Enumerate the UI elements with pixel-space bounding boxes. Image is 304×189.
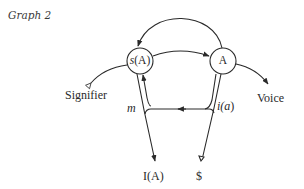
label-i-of-a: i(a) — [217, 100, 234, 112]
edge-m-outer — [137, 74, 155, 161]
edge-ia-outer — [202, 74, 221, 160]
label-signifier: Signifier — [65, 89, 107, 101]
label-barred-S: $ — [196, 170, 202, 182]
label-voice: Voice — [257, 92, 284, 104]
label-m: m — [127, 102, 136, 114]
barred-S-start-triangle — [199, 156, 204, 161]
edge-sA-to-A — [153, 51, 209, 56]
label-I-of-A: I(A) — [143, 170, 164, 182]
edge-signifier — [91, 65, 127, 83]
node-A-label: A — [219, 55, 227, 67]
graph-diagram: Graph 2 — [0, 0, 304, 189]
edge-m-inner — [143, 75, 151, 106]
node-s-of-A-label: s(A) — [130, 55, 150, 67]
edge-voice — [236, 64, 268, 84]
edge-A-to-sA-arc — [138, 18, 222, 48]
